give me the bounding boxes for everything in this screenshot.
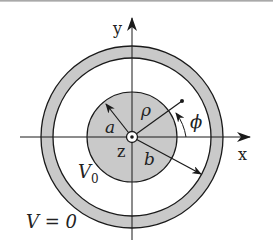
outer-radius-label: b [144,149,155,169]
outer-potential-label: V = 0 [26,211,77,232]
rho-endpoint-dot [180,99,184,103]
coaxial-cylinder-diagram: y x z a b ρ ϕ V0 V = 0 [0,0,273,244]
y-axis-label: y [112,19,122,38]
z-axis-label: z [117,142,125,161]
rho-label: ρ [140,100,151,120]
inner-radius-label: a [105,117,115,137]
z-axis-origin-icon [127,132,138,143]
phi-label: ϕ [190,111,202,132]
x-axis-label: x [238,145,247,164]
